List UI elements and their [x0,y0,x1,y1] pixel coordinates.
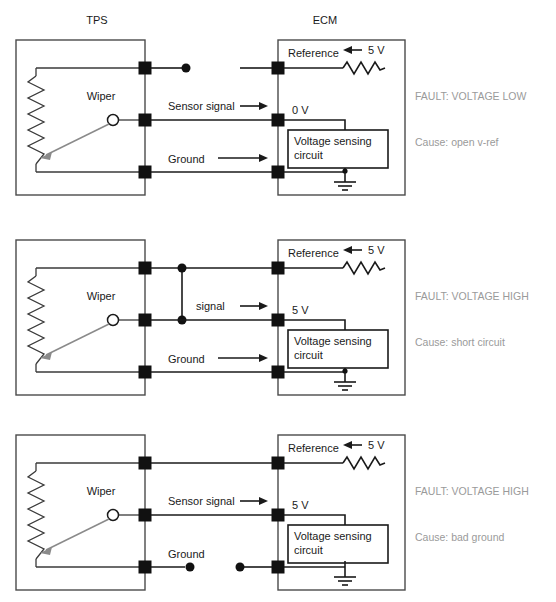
ground-open-end-dot-right-3 [236,563,245,572]
signal-arrowhead-icon-1 [259,102,268,110]
signal-voltage-label-3: 5 V [292,499,309,511]
diagram-panel-1: TPS ECM Wiper [0,0,556,205]
diagram-page: TPS ECM Wiper [0,0,556,602]
ecm-terminal-ground-2 [272,366,284,378]
voltage-sensing-label-line2-2: circuit [294,349,323,361]
tps-potentiometer-resistor-3 [28,471,44,559]
wiper-label-1: Wiper [87,90,116,102]
supply-arrowhead-icon-1 [343,46,352,54]
reference-label-2: Reference [288,247,339,259]
supply-label-3: 5 V [368,439,385,451]
ground-arrowhead-icon-1 [259,154,268,162]
ground-wire-label-1: Ground [168,153,205,165]
ecm-reference-resistor-2 [343,262,385,274]
voltage-sensing-label-line2-3: circuit [294,544,323,556]
wiper-label-3: Wiper [87,485,116,497]
ecm-terminal-signal-2 [272,314,284,326]
ecm-header-label: ECM [313,14,337,26]
wiper-arrow-2 [46,324,109,355]
fault-label-3: FAULT: VOLTAGE HIGH [415,485,529,497]
wiper-label-2: Wiper [87,290,116,302]
supply-arrowhead-icon-2 [343,246,352,254]
wiper-contact-icon-2 [108,315,119,326]
cause-label-2: Cause: short circuit [415,336,505,348]
signal-arrowhead-icon-2 [259,302,268,310]
tps-potentiometer-resistor [28,76,44,164]
tps-terminal-signal-2 [139,314,151,326]
signal-wire-label-1: Sensor signal [168,100,235,112]
voltage-sensing-label-line1-3: Voltage sensing [294,530,372,542]
tps-terminal-ground-1 [139,166,151,178]
reference-label-3: Reference [288,442,339,454]
ecm-terminal-reference-2 [272,262,284,274]
supply-arrowhead-icon-3 [343,441,352,449]
voltage-sensing-label-line1-1: Voltage sensing [294,135,372,147]
voltage-sensing-label-line2-1: circuit [294,149,323,161]
diagram-panel-3: Wiper Sensor signal Ground Reference [0,405,556,602]
ground-open-end-dot-left-3 [186,563,195,572]
ecm-terminal-signal-3 [272,509,284,521]
supply-label-2: 5 V [368,244,385,256]
ecm-terminal-signal-1 [272,114,284,126]
circuit-svg-2: Wiper signal Ground [0,205,556,405]
signal-voltage-label-2: 5 V [292,304,309,316]
signal-voltage-label-1: 0 V [292,104,309,116]
ecm-terminal-ground-1 [272,166,284,178]
signal-arrowhead-icon-3 [259,497,268,505]
short-circuit-junction-dot-top-2 [178,264,187,273]
ecm-ground-junction-dot-2 [342,368,347,373]
tps-terminal-reference-2 [139,262,151,274]
ground-wire-label-3: Ground [168,548,205,560]
ground-wire-label-2: Ground [168,353,205,365]
tps-potentiometer-resistor-2 [28,276,44,364]
ecm-signal-branch-2 [284,320,345,330]
ecm-terminal-reference-1 [272,62,284,74]
supply-label-1: 5 V [368,44,385,56]
ecm-reference-resistor-1 [343,62,385,74]
tps-terminal-signal-1 [139,114,151,126]
diagram-panel-2: Wiper signal Ground [0,205,556,405]
tps-terminal-signal-3 [139,509,151,521]
wiper-arrow-3 [46,519,109,550]
circuit-svg-1: TPS ECM Wiper [0,0,556,205]
ecm-reference-resistor-3 [343,457,385,469]
tps-terminal-ground-2 [139,366,151,378]
tps-terminal-reference-1 [139,62,151,74]
ground-arrowhead-icon-2 [259,354,268,362]
signal-wire-label-2: signal [196,300,225,312]
fault-label-2: FAULT: VOLTAGE HIGH [415,290,529,302]
reference-open-end-dot-1 [182,64,191,73]
circuit-svg-3: Wiper Sensor signal Ground Reference [0,405,556,602]
ecm-ground-junction-dot-1 [342,168,347,173]
fault-label-1: FAULT: VOLTAGE LOW [415,90,527,102]
ecm-terminal-reference-3 [272,457,284,469]
wiper-contact-icon-1 [108,115,119,126]
wiper-arrow-1 [46,124,109,155]
wiper-contact-icon-3 [108,510,119,521]
signal-wire-label-3: Sensor signal [168,495,235,507]
tps-terminal-reference-3 [139,457,151,469]
tps-terminal-ground-3 [139,561,151,573]
ecm-terminal-ground-3 [272,561,284,573]
tps-header-label: TPS [86,14,107,26]
cause-label-1: Cause: open v-ref [415,136,499,148]
voltage-sensing-label-line1-2: Voltage sensing [294,335,372,347]
ecm-signal-branch-3 [284,515,345,525]
reference-label-1: Reference [288,47,339,59]
cause-label-3: Cause: bad ground [415,531,504,543]
ecm-signal-branch-1 [284,120,345,130]
